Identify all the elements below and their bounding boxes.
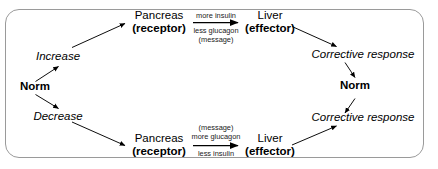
liver-bottom-organ-label: Liver — [258, 132, 283, 144]
node-liver-top: Liver (effector) — [242, 9, 298, 35]
homeostasis-diagram: Norm Increase Decrease Pancreas (recepto… — [0, 0, 438, 169]
node-norm-left: Norm — [0, 80, 70, 93]
arrow-corrective-top-to-norm-right — [345, 63, 355, 78]
arrow-liver-top-to-corrective-top — [292, 27, 337, 47]
node-decrease: Decrease — [18, 110, 98, 123]
arrow-norm-to-decrease — [36, 95, 59, 109]
node-liver-bottom: Liver (effector) — [242, 132, 298, 158]
arrow-decrease-to-pancreas-bottom — [72, 122, 125, 146]
arrow-liver-bottom-to-corrective-bottom — [292, 126, 337, 145]
pancreas-bottom-organ-label: Pancreas — [135, 132, 184, 144]
node-corrective-response-top: Corrective response — [303, 48, 423, 61]
liver-top-role-label: (effector) — [242, 22, 298, 35]
message-label-bottom-above-2: more glucagon — [183, 132, 249, 141]
pancreas-top-organ-label: Pancreas — [135, 9, 184, 21]
liver-top-organ-label: Liver — [258, 9, 283, 21]
node-increase: Increase — [18, 50, 98, 63]
message-label-top-below-2: (message) — [183, 35, 249, 44]
message-label-top-above: more insulin — [183, 11, 249, 20]
node-corrective-response-bottom: Corrective response — [303, 111, 423, 124]
arrow-increase-to-pancreas-top — [72, 24, 125, 48]
message-label-bottom-below: less insulin — [183, 149, 249, 158]
liver-bottom-role-label: (effector) — [242, 145, 298, 158]
node-norm-right: Norm — [325, 79, 385, 92]
